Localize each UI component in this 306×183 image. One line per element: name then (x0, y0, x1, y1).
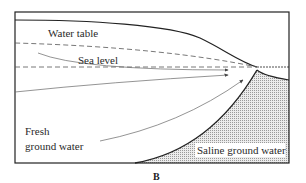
sea-level-label: Sea level (78, 54, 118, 66)
fresh-label-2: ground water (25, 140, 84, 152)
fresh-label-1: Fresh (25, 125, 50, 137)
dashed-reference-line (15, 43, 257, 67)
flow-line-2 (15, 75, 228, 92)
flow-line-1 (38, 53, 228, 70)
water-table-label: Water table (48, 27, 98, 39)
coastal-aquifer-diagram: Water table Sea level Fresh ground water… (0, 0, 306, 183)
saline-label: Saline ground water (197, 144, 286, 156)
panel-label: B (153, 171, 160, 182)
